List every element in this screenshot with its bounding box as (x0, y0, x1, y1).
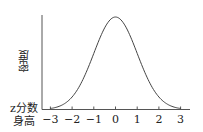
z-score-row-label: z分数 (10, 103, 38, 114)
x-tick-label: −3 (42, 114, 58, 125)
x-tick-label: 3 (177, 114, 184, 125)
density-curve (50, 17, 180, 108)
x-tick-label: −1 (86, 114, 102, 125)
x-tick-label: −2 (64, 114, 80, 125)
x-tick-label: 1 (134, 114, 141, 125)
height-row-label: 身高 (13, 116, 35, 127)
x-tick-label: 0 (112, 114, 119, 125)
y-axis-label: 密度 (19, 50, 30, 72)
x-tick-label: 2 (155, 114, 162, 125)
